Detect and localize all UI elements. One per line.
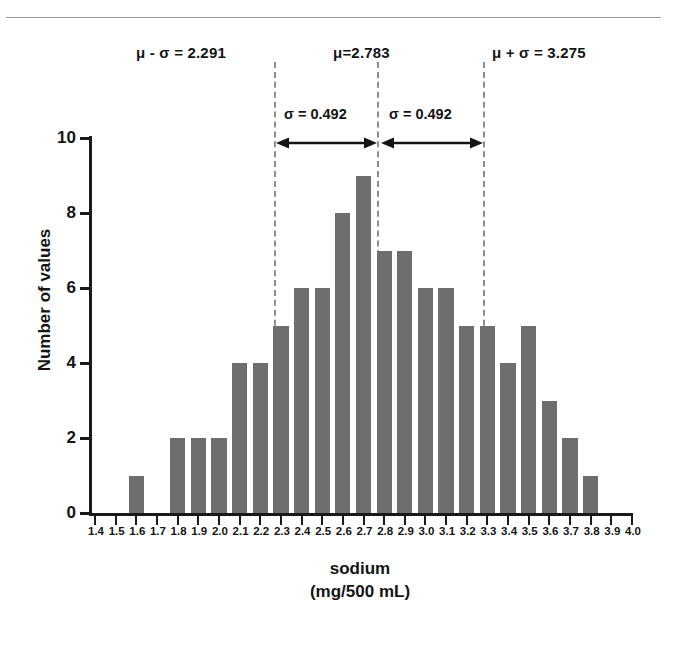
x-axis-line bbox=[89, 513, 633, 516]
y-axis-tick bbox=[80, 212, 90, 215]
x-axis-tick bbox=[280, 516, 282, 525]
y-axis-tick bbox=[80, 287, 90, 290]
x-axis-tick bbox=[321, 516, 323, 525]
histogram-bar bbox=[191, 438, 206, 513]
histogram-bar bbox=[438, 288, 453, 513]
histogram-bar bbox=[562, 438, 577, 513]
y-axis-title: Number of values bbox=[35, 200, 55, 400]
x-axis-tick bbox=[528, 516, 530, 525]
histogram-bar bbox=[418, 288, 433, 513]
y-axis-tick-label: 10 bbox=[38, 129, 76, 146]
histogram-bar bbox=[521, 326, 536, 514]
x-axis-tick bbox=[424, 516, 426, 525]
histogram-bar bbox=[480, 326, 495, 514]
histogram-bar bbox=[232, 363, 247, 513]
x-axis-tick bbox=[197, 516, 199, 525]
x-axis-tick bbox=[115, 516, 117, 525]
histogram-bar bbox=[583, 476, 598, 514]
histogram-bar bbox=[500, 363, 515, 513]
x-axis-tick bbox=[404, 516, 406, 525]
x-axis-tick bbox=[486, 516, 488, 525]
plot-area: 0246810 1.41.51.61.71.81.92.02.12.22.32.… bbox=[0, 0, 673, 645]
x-axis-title: sodium (mg/500 mL) bbox=[160, 558, 560, 604]
histogram-figure: μ - σ = 2.291 μ=2.783 μ + σ = 3.275 σ = … bbox=[0, 0, 673, 645]
histogram-bar bbox=[315, 288, 330, 513]
histogram-bar bbox=[356, 176, 371, 514]
x-axis-tick bbox=[301, 516, 303, 525]
x-axis-tick bbox=[239, 516, 241, 525]
histogram-bar bbox=[294, 288, 309, 513]
y-axis-line bbox=[89, 136, 92, 516]
x-axis-tick bbox=[342, 516, 344, 525]
x-axis-tick-label: 4.0 bbox=[618, 525, 648, 538]
histogram-bar bbox=[397, 251, 412, 514]
x-axis-tick bbox=[631, 516, 633, 525]
x-axis-tick bbox=[383, 516, 385, 525]
x-axis-title-units: (mg/500 mL) bbox=[160, 581, 560, 604]
x-axis-tick bbox=[507, 516, 509, 525]
x-axis-tick bbox=[177, 516, 179, 525]
x-axis-tick bbox=[445, 516, 447, 525]
histogram-bar bbox=[335, 213, 350, 513]
histogram-bar bbox=[377, 251, 392, 514]
x-axis-tick bbox=[590, 516, 592, 525]
histogram-bar bbox=[129, 476, 144, 514]
x-axis-tick bbox=[466, 516, 468, 525]
y-axis-tick bbox=[80, 437, 90, 440]
y-axis-tick bbox=[80, 137, 90, 140]
x-axis-tick bbox=[363, 516, 365, 525]
y-axis-tick-label: 0 bbox=[38, 504, 76, 521]
x-axis-title-main: sodium bbox=[160, 558, 560, 581]
x-axis-tick bbox=[135, 516, 137, 525]
y-axis-tick bbox=[80, 362, 90, 365]
histogram-bar bbox=[542, 401, 557, 514]
x-axis-tick bbox=[218, 516, 220, 525]
y-axis-tick-label: 2 bbox=[38, 429, 76, 446]
x-axis-tick bbox=[548, 516, 550, 525]
x-axis-tick bbox=[94, 516, 96, 525]
histogram-bar bbox=[273, 326, 288, 514]
x-axis-tick bbox=[569, 516, 571, 525]
histogram-bar bbox=[211, 438, 226, 513]
y-axis-tick bbox=[80, 512, 90, 515]
x-axis-tick bbox=[259, 516, 261, 525]
x-axis-tick bbox=[610, 516, 612, 525]
histogram-bar bbox=[253, 363, 268, 513]
x-axis-tick bbox=[156, 516, 158, 525]
histogram-bar bbox=[459, 326, 474, 514]
histogram-bar bbox=[170, 438, 185, 513]
